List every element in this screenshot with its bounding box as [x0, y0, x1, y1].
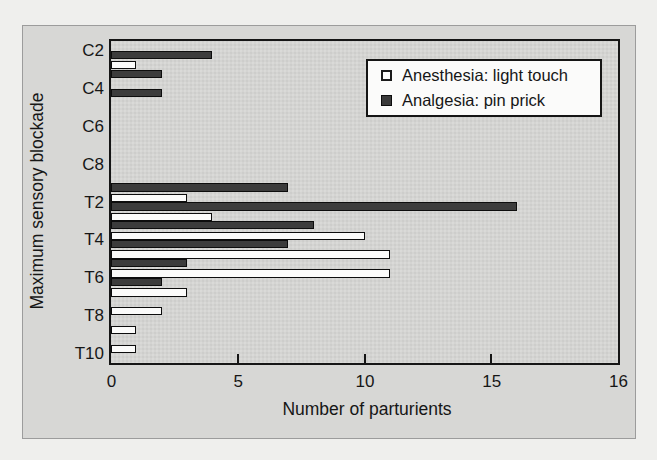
x-axis-title: Number of parturients — [227, 398, 507, 420]
y-tick-label-T6: T6 — [23, 267, 104, 289]
y-tick-label-T8: T8 — [23, 305, 104, 327]
legend-item-anesthesia: Anesthesia: light touch — [381, 65, 600, 86]
legend-item-analgesia: Analgesia: pin prick — [381, 90, 600, 111]
x-tick-label-15: 15 — [482, 371, 501, 393]
x-tick-label-10: 10 — [356, 371, 375, 393]
page-background: { "figure": { "xlabel": "Number of partu… — [0, 0, 657, 460]
bar-anesthesia-T7 — [111, 288, 187, 296]
x-tick-mark-15 — [490, 354, 492, 363]
bar-anesthesia-T6 — [111, 269, 390, 277]
bar-analgesia-T3 — [111, 221, 314, 229]
bar-analgesia-C2 — [111, 51, 212, 59]
bar-analgesia-T5 — [111, 259, 187, 267]
y-tick-label-C8: C8 — [23, 154, 104, 176]
bar-analgesia-T2 — [111, 202, 517, 210]
legend-label-anesthesia: Anesthesia: light touch — [402, 65, 568, 86]
open-square-swatch-icon — [381, 70, 392, 81]
y-tick-label-C2: C2 — [23, 40, 104, 62]
bar-anesthesia-T10 — [111, 345, 136, 353]
bar-anesthesia-T9 — [111, 326, 136, 334]
bar-analgesia-T1 — [111, 183, 288, 191]
y-tick-label-T2: T2 — [23, 192, 104, 214]
y-tick-label-T4: T4 — [23, 229, 104, 251]
bar-anesthesia-T5 — [111, 250, 390, 258]
bar-anesthesia-T3 — [111, 213, 212, 221]
x-tick-label-16: 16 — [609, 371, 628, 393]
x-tick-mark-5 — [237, 354, 239, 363]
y-tick-label-C6: C6 — [23, 116, 104, 138]
y-tick-label-T10: T10 — [23, 343, 104, 365]
bar-anesthesia-T2 — [111, 194, 187, 202]
bar-analgesia-C3 — [111, 70, 162, 78]
filled-square-swatch-icon — [381, 95, 392, 106]
bar-analgesia-T6 — [111, 278, 162, 286]
y-tick-label-C4: C4 — [23, 78, 104, 100]
x-tick-label-5: 5 — [234, 371, 243, 393]
x-tick-mark-10 — [364, 354, 366, 363]
bar-anesthesia-T4 — [111, 232, 365, 240]
figure-frame: Maximum sensory blockade Number of partu… — [22, 25, 636, 439]
bar-anesthesia-C3 — [111, 61, 136, 69]
bar-anesthesia-T8 — [111, 307, 162, 315]
legend-label-analgesia: Analgesia: pin prick — [402, 90, 545, 111]
legend: Anesthesia: light touch Analgesia: pin p… — [366, 59, 602, 117]
x-tick-label-0: 0 — [107, 371, 116, 393]
bar-analgesia-T4 — [111, 240, 288, 248]
bar-analgesia-C4 — [111, 89, 162, 97]
